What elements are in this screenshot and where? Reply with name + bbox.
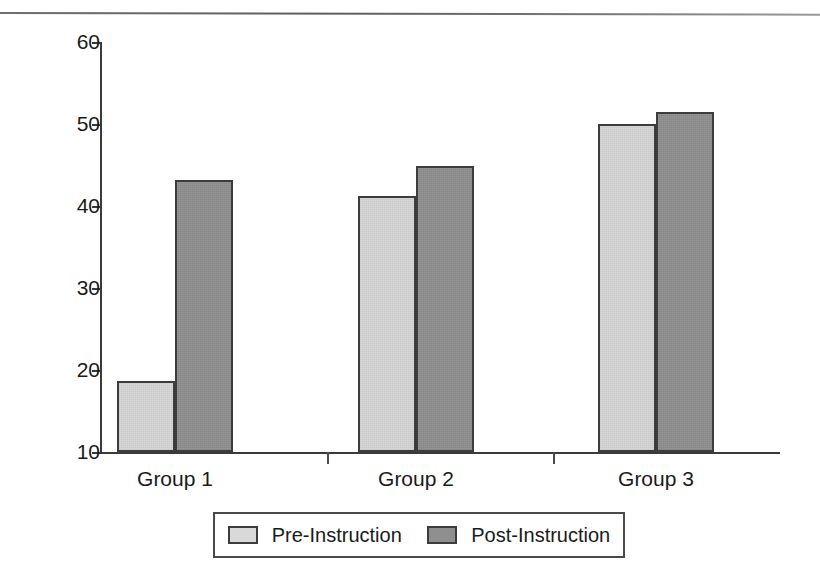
bar-group2-pre [358, 196, 416, 452]
legend-entry-post-instruction: Post-Instruction [427, 524, 610, 547]
x-label-group-2: Group 2 [356, 466, 476, 491]
y-tick-label: 60 [44, 31, 100, 52]
legend-entry-pre-instruction: Pre-Instruction [228, 524, 402, 547]
legend-swatch-icon [228, 526, 258, 544]
y-tick-label: 40 [44, 195, 100, 216]
legend-label: Post-Instruction [471, 524, 610, 547]
x-axis-line [100, 452, 780, 454]
x-label-group-1: Group 1 [115, 466, 235, 491]
y-tick-label: 20 [44, 359, 100, 380]
y-tick-label: 50 [44, 113, 100, 134]
x-tick-mark [327, 452, 329, 464]
chart-legend: Pre-Instruction Post-Instruction [213, 512, 625, 558]
bar-group3-post [656, 112, 714, 452]
x-label-group-3: Group 3 [596, 466, 716, 491]
bar-group1-post [175, 180, 233, 452]
bar-group3-pre [598, 124, 656, 452]
legend-swatch-icon [427, 526, 457, 544]
y-axis-line [100, 42, 102, 454]
x-tick-mark [553, 452, 555, 464]
y-tick-label: 30 [44, 277, 100, 298]
figure-page: 60 50 40 30 20 10 [0, 0, 820, 585]
bar-chart: 60 50 40 30 20 10 [0, 0, 820, 585]
legend-label: Pre-Instruction [272, 524, 402, 547]
bar-group2-post [416, 166, 474, 452]
bar-group1-pre [117, 381, 175, 452]
y-tick-label: 10 [44, 441, 100, 462]
